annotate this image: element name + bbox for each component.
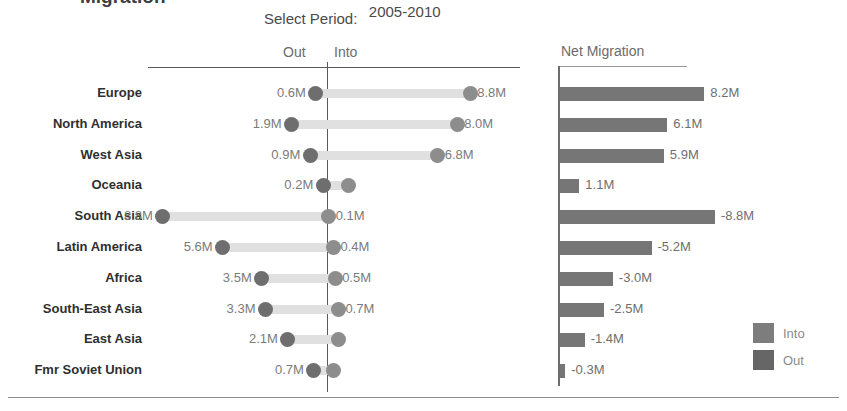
net-migration-bar[interactable] [560,303,604,317]
value-into: 0.1M [336,201,365,231]
value-out: 2.1M [218,324,278,354]
net-migration-bar[interactable] [560,272,613,286]
column-header-net-migration: Net Migration [561,43,644,59]
dumbbell-cell: 8.8M0.1M [148,201,520,231]
net-migration-cell: 6.1M [558,109,847,139]
dot-out[interactable] [306,363,321,378]
value-into: 0.4M [341,232,370,262]
net-migration-bar[interactable] [560,118,667,132]
period-value[interactable]: 2005-2010 [369,3,441,20]
row-label-europe: Europe [0,78,142,108]
net-migration-bar[interactable] [560,149,664,163]
connector-bar [316,89,470,98]
table-row: Europe0.6M8.8M8.2M [0,78,847,108]
period-selector[interactable]: Select Period: 2005-2010 [264,10,441,28]
net-migration-value: -1.4M [591,324,624,354]
dot-out[interactable] [284,117,299,132]
dumbbell-cell: 5.6M0.4M [148,232,520,262]
table-row: South-East Asia3.3M0.7M-2.5M [0,294,847,324]
net-migration-value: 6.1M [673,109,702,139]
value-out: 0.2M [253,170,313,200]
value-out: 0.7M [244,355,304,385]
row-label-south-east-asia: South-East Asia [0,294,142,324]
dot-into[interactable] [463,86,478,101]
dumbbell-cell: 3.3M0.7M [148,294,520,324]
value-out: 5.6M [153,232,213,262]
row-label-fmr-soviet-union: Fmr Soviet Union [0,355,142,385]
net-migration-bar[interactable] [560,364,565,378]
net-migration-value: -0.3M [571,355,604,385]
net-migration-bar[interactable] [560,87,704,101]
value-into: 0.5M [342,263,371,293]
chart-canvas: Migration Select Period: 2005-2010 Out I… [0,0,847,411]
net-migration-bar[interactable] [560,241,652,255]
net-header-rule [558,66,687,67]
column-header-out: Out [283,44,306,60]
dot-out[interactable] [303,148,318,163]
net-migration-cell: -3.0M [558,263,847,293]
value-into: 0.7M [345,294,374,324]
net-migration-value: -3.0M [619,263,652,293]
dot-into[interactable] [331,302,346,317]
connector-bar [292,120,458,129]
net-migration-value: -8.8M [721,201,754,231]
net-migration-cell: -8.8M [558,201,847,231]
dumbbell-cell: 0.7M [148,355,520,385]
value-into: 6.8M [445,140,474,170]
legend-label: Into [783,320,805,347]
table-row: West Asia0.9M6.8M5.9M [0,140,847,170]
table-row: Africa3.5M0.5M-3.0M [0,263,847,293]
dot-into[interactable] [341,178,356,193]
footer-rule [8,397,839,398]
dumbbell-cell: 0.6M8.8M [148,78,520,108]
net-migration-bar[interactable] [560,210,715,224]
dumbbell-cell: 2.1M [148,324,520,354]
value-out: 0.9M [240,140,300,170]
dumbbell-header-rule [148,67,520,68]
connector-bar [163,212,329,221]
dot-into[interactable] [430,148,445,163]
net-migration-value: -5.2M [658,232,691,262]
dot-out[interactable] [215,240,230,255]
dot-into[interactable] [326,363,341,378]
connector-bar [310,151,437,160]
row-label-north-america: North America [0,109,142,139]
table-row: Latin America5.6M0.4M-5.2M [0,232,847,262]
table-row: Oceania0.2M1.1M [0,170,847,200]
dot-out[interactable] [316,178,331,193]
row-label-east-asia: East Asia [0,324,142,354]
value-out: 3.3M [195,294,255,324]
dumbbell-cell: 1.9M8.0M [148,109,520,139]
row-label-latin-america: Latin America [0,232,142,262]
dot-into[interactable] [321,209,336,224]
row-label-west-asia: West Asia [0,140,142,170]
net-migration-cell: -5.2M [558,232,847,262]
connector-bar [223,243,334,252]
page-title: Migration [80,0,166,8]
dot-into[interactable] [328,271,343,286]
dot-out[interactable] [254,271,269,286]
dot-into[interactable] [450,117,465,132]
dumbbell-cell: 3.5M0.5M [148,263,520,293]
net-migration-bar[interactable] [560,179,579,193]
dot-into[interactable] [326,240,341,255]
dot-out[interactable] [155,209,170,224]
period-label: Select Period: [264,10,357,27]
value-out: 3.5M [192,263,252,293]
legend-swatch [753,323,774,343]
table-row: Fmr Soviet Union0.7M-0.3M [0,355,847,385]
column-header-into: Into [334,44,357,60]
dot-out[interactable] [280,332,295,347]
dot-out[interactable] [258,302,273,317]
table-row: East Asia2.1M-1.4M [0,324,847,354]
net-migration-cell: 8.2M [558,78,847,108]
net-migration-value: 5.9M [670,140,699,170]
dot-into[interactable] [331,332,346,347]
value-out: 8.8M [93,201,153,231]
net-migration-bar[interactable] [560,333,585,347]
net-migration-value: 1.1M [585,170,614,200]
dot-out[interactable] [308,86,323,101]
table-row: North America1.9M8.0M6.1M [0,109,847,139]
value-into: 8.8M [477,78,506,108]
connector-bar [265,305,338,314]
